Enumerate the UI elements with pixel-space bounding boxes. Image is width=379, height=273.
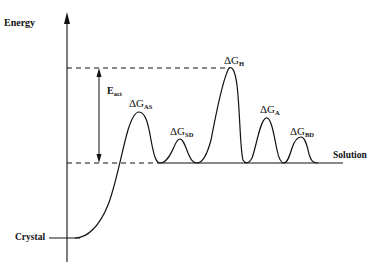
arrow-down-icon [97,154,102,163]
arrow-up-icon [97,68,102,77]
energy-axis [64,12,70,262]
y-axis-label: Energy [4,18,35,28]
energy-diagram: Energy Eact ΔGAS ΔGSD ΔGH ΔGA ΔGBD Solut… [0,0,379,273]
barrier-label-h: ΔGH [224,55,244,68]
barrier-label-as: ΔGAS [129,98,152,111]
axis-arrow-icon [64,12,70,24]
barrier-label-a: ΔGA [260,104,280,117]
eact-arrow [97,68,102,163]
barrier-label-bd: ΔGBD [290,126,314,139]
eact-label: Eact [107,86,122,98]
crystal-label: Crystal [15,233,45,243]
barrier-label-sd: ΔGSD [170,126,193,139]
solution-label: Solution [333,151,367,161]
